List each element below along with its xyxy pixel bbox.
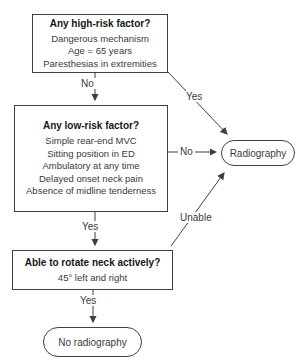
low-risk-title: Any low-risk factor?	[43, 119, 139, 133]
high-risk-item: Paresthesias in extremities	[43, 58, 157, 71]
edge-label-unable: Unable	[178, 212, 214, 223]
high-risk-item: Age = 65 years	[68, 45, 132, 58]
flowchart-canvas: Any high-risk factor? Dangerous mechanis…	[0, 0, 306, 364]
radiography-oval: Radiography	[221, 140, 295, 166]
high-risk-title: Any high-risk factor?	[50, 17, 151, 31]
rotate-neck-box: Able to rotate neck actively? 45° left a…	[12, 250, 173, 290]
edge-unable-diagonal	[171, 173, 224, 246]
edge-label-no-2: No	[178, 146, 195, 157]
no-radiography-label: No radiography	[58, 337, 126, 348]
edge-label-yes-1: Yes	[184, 91, 204, 102]
rotate-neck-item: 45° left and right	[58, 272, 127, 285]
high-risk-item: Dangerous mechanism	[51, 33, 149, 46]
low-risk-item: Ambulatory at any time	[42, 160, 139, 173]
high-risk-box: Any high-risk factor? Dangerous mechanis…	[32, 14, 168, 73]
radiography-label: Radiography	[230, 148, 287, 159]
edge-label-yes-3: Yes	[78, 295, 98, 306]
no-radiography-oval: No radiography	[43, 327, 142, 357]
edge-yes-diagonal	[168, 72, 227, 134]
low-risk-item: Sitting position in ED	[47, 148, 135, 161]
low-risk-item: Simple rear-end MVC	[45, 135, 136, 148]
edge-label-yes-2: Yes	[80, 221, 100, 232]
edge-label-no-1: No	[79, 78, 96, 89]
rotate-neck-title: Able to rotate neck actively?	[25, 256, 161, 270]
low-risk-box: Any low-risk factor? Simple rear-end MVC…	[14, 105, 168, 212]
low-risk-item: Delayed onset neck pain	[39, 173, 143, 186]
low-risk-item: Absence of midline tenderness	[26, 185, 156, 198]
